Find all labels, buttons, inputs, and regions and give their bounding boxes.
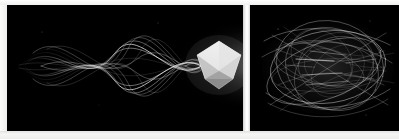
panel-left-canvas <box>7 5 243 131</box>
figure-bottom-margin <box>0 131 399 139</box>
panel-divider <box>243 5 250 131</box>
figure-left-margin <box>0 0 7 139</box>
left-trail-graphic <box>7 5 243 131</box>
figure-top-margin <box>0 0 399 5</box>
panel-right[interactable]: Chaotic overlapping elliptical light tra… <box>250 5 399 131</box>
panel-right-canvas <box>250 5 399 131</box>
right-trail-graphic <box>250 5 399 131</box>
figure-root: Two-panel long-exposure light trail comp… <box>0 0 399 139</box>
panel-left[interactable]: Coherent braided light trails converging… <box>7 5 243 131</box>
